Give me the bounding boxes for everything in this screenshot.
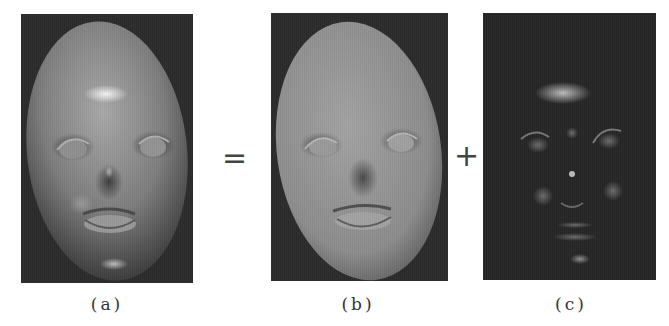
panel-b-diffuse-image [271, 13, 448, 281]
face-c-graphic [483, 13, 656, 280]
panel-a-full-face-image [21, 14, 193, 283]
face-b-graphic [271, 13, 448, 281]
plus-operator: + [454, 141, 479, 171]
panel-c-specular-image [483, 13, 656, 280]
panel-a-label: (a) [91, 294, 123, 314]
panel-b-label: (b) [341, 294, 374, 314]
panel-c-label: (c) [555, 294, 587, 314]
equals-operator: = [222, 143, 247, 173]
face-a-graphic [21, 14, 193, 283]
